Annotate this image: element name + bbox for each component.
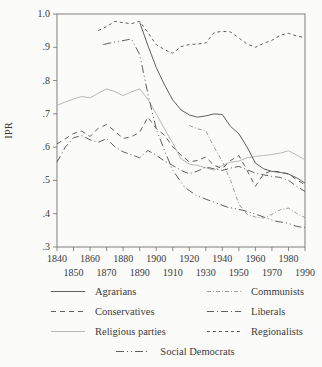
y-tick-label: .8 (43, 75, 51, 86)
legend-label-liberals: Liberals (251, 305, 285, 318)
y-tick-label: .6 (43, 141, 51, 152)
x-tick-label: 1930 (196, 267, 216, 278)
x-tick-label: 1910 (163, 267, 183, 278)
y-tick-label: .4 (43, 208, 51, 219)
conservatives-line-sample (50, 307, 86, 316)
series-line-liberals (57, 136, 305, 192)
legend-item-social-democrats: Social Democrats (115, 345, 234, 358)
series-line-religious (57, 89, 305, 170)
communists-line-sample (206, 287, 242, 296)
series-line-agrarians (140, 22, 305, 183)
legend-item-conservatives: Conservatives (50, 305, 206, 318)
legend-label-communists: Communists (251, 285, 304, 298)
x-tick-label: 1860 (80, 253, 100, 264)
x-tick-label: 1950 (229, 267, 249, 278)
series-line-communists (189, 126, 305, 219)
legend-item-communists: Communists (206, 285, 316, 298)
series-line-social_democrats (103, 39, 305, 228)
x-tick-label: 1890 (130, 267, 150, 278)
liberals-line-sample (206, 307, 242, 316)
legend-label-agrarians: Agrarians (95, 285, 136, 298)
legend-label-conservatives: Conservatives (95, 305, 155, 318)
legend-label-social-democrats: Social Democrats (160, 345, 234, 358)
y-axis-label: IPR (3, 122, 14, 138)
religious-parties-line-sample (50, 327, 86, 336)
legend-item-religious-parties: Religious parties (50, 325, 206, 338)
legend-item-regionalists: Regionalists (206, 325, 316, 338)
y-tick-label: .7 (43, 108, 51, 119)
x-tick-label: 1900 (146, 253, 166, 264)
x-tick-label: 1840 (47, 253, 67, 264)
x-tick-label: 1870 (97, 267, 117, 278)
chart-legend: Agrarians Communists Conservatives Liber… (0, 285, 322, 358)
ipr-figure: 1.0.9.8.7.6.5.4.318401850186018701880189… (0, 0, 322, 367)
x-tick-label: 1850 (64, 267, 84, 278)
regionalists-line-sample (206, 327, 242, 336)
x-tick-label: 1970 (262, 267, 282, 278)
plot-frame (57, 14, 305, 247)
x-tick-label: 1940 (212, 253, 232, 264)
y-tick-label: .9 (43, 41, 51, 52)
x-tick-label: 1920 (179, 253, 199, 264)
legend-item-agrarians: Agrarians (50, 285, 206, 298)
agrarians-line-sample (50, 287, 86, 296)
y-tick-label: 1.0 (38, 8, 51, 19)
x-tick-label: 1880 (113, 253, 133, 264)
x-tick-label: 1980 (278, 253, 298, 264)
series-line-regionalists (98, 21, 305, 53)
y-tick-label: .3 (43, 241, 51, 252)
legend-label-religious-parties: Religious parties (95, 325, 166, 338)
x-tick-label: 1990 (295, 267, 315, 278)
y-tick-label: .5 (43, 174, 51, 185)
legend-label-regionalists: Regionalists (251, 325, 303, 338)
social-democrats-line-sample (115, 347, 151, 356)
legend-item-liberals: Liberals (206, 305, 316, 318)
x-tick-label: 1960 (245, 253, 265, 264)
ipr-line-chart: 1.0.9.8.7.6.5.4.318401850186018701880189… (0, 0, 322, 281)
